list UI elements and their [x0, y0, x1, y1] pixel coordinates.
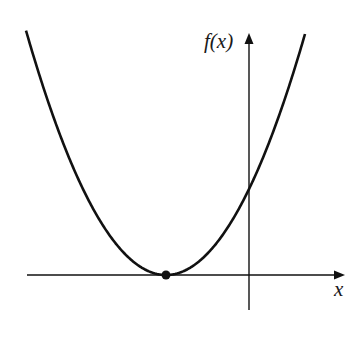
y-axis-label: f(x) — [204, 29, 233, 53]
parabola-diagram: f(x) x — [0, 0, 361, 337]
y-axis-arrow-icon — [245, 33, 254, 44]
x-axis-label: x — [333, 277, 344, 301]
parabola-curve — [26, 31, 305, 275]
vertex-point — [162, 271, 171, 280]
